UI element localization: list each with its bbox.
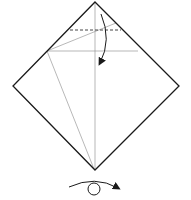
turn-over-icon: [69, 181, 118, 195]
diagonal-crease-lower: [47, 51, 94, 169]
fold-arrow-icon: [100, 14, 106, 63]
origami-diagram: [0, 0, 191, 200]
paper-diamond: [13, 2, 179, 170]
crease-lines: [47, 2, 138, 170]
